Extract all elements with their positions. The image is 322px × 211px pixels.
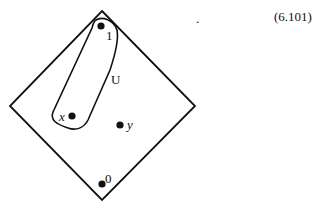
point-x xyxy=(68,112,75,119)
label-x: x xyxy=(59,110,65,123)
diamond xyxy=(10,11,195,200)
label-u: U xyxy=(111,73,120,86)
label-1: 1 xyxy=(106,29,113,42)
point-1 xyxy=(97,22,104,29)
label-0: 0 xyxy=(105,172,112,185)
point-y xyxy=(116,121,123,128)
equation-number: (6.101) xyxy=(274,10,312,23)
label-y: y xyxy=(127,118,133,131)
period: . xyxy=(196,12,199,25)
lattice-diagram xyxy=(0,0,322,211)
